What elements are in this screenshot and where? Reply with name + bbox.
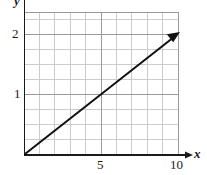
axes — [24, 0, 188, 155]
x-axis-label: x — [194, 147, 201, 160]
chart-figure: 2 1 5 10 y x — [0, 0, 207, 175]
x-tick-label-5: 5 — [97, 158, 104, 171]
y-tick-label-2: 2 — [12, 27, 19, 40]
major-gridlines — [24, 12, 178, 155]
x-tick-label-10: 10 — [170, 158, 183, 171]
data-line-series — [25, 32, 180, 154]
x-axis-arrowhead — [185, 152, 193, 159]
plot-canvas — [0, 0, 207, 175]
y-tick-label-1: 1 — [14, 87, 21, 100]
y-axis-label: y — [14, 0, 20, 7]
